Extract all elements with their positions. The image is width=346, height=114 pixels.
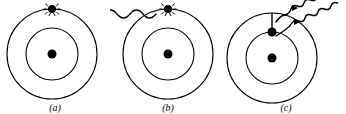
panel-a-label: (a)	[0, 102, 110, 113]
panel-b: (b)	[110, 0, 226, 114]
nucleus-dot	[164, 50, 173, 59]
panel-a: (a)	[0, 0, 110, 114]
nucleus-dot	[48, 50, 57, 59]
panel-c: (c)	[226, 0, 346, 114]
emitted-photon-lower-wave	[276, 2, 338, 36]
panel-c-diagram	[226, 0, 346, 114]
electron-dot	[268, 28, 277, 37]
panel-b-diagram	[110, 0, 226, 114]
nucleus-dot	[268, 54, 277, 63]
emitted-photon-upper-wave	[276, 0, 337, 22]
panel-a-diagram	[0, 0, 110, 114]
electron-dot	[164, 5, 172, 13]
panel-c-label: (c)	[226, 102, 346, 113]
incoming-photon-wave	[110, 10, 156, 18]
panel-b-label: (b)	[110, 102, 226, 113]
electron-dot	[48, 5, 56, 13]
physics-figure-atom-radiation: (a) (b)	[0, 0, 346, 114]
